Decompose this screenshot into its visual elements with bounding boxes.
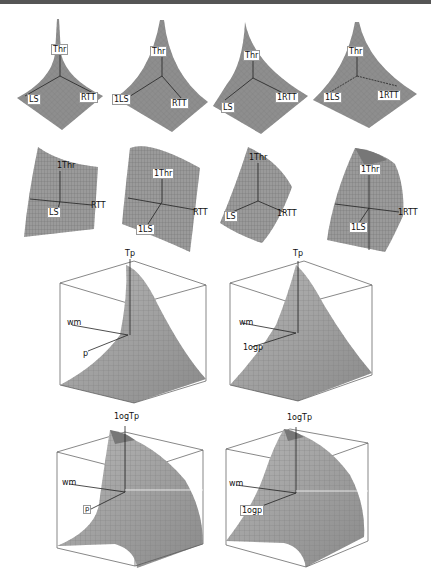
axis-label-p: p [83, 505, 91, 514]
axis-label-y: RTT [192, 208, 209, 217]
axis-label-y: 1RTT [276, 209, 298, 218]
axis-label-y: 1RTT [275, 92, 299, 103]
axis-label-x: LS [47, 207, 61, 218]
plot-1thr-1ls-rtt: 1Thr 1LS RTT [120, 142, 215, 254]
plot-thr-ls-1rtt: Thr LS 1RTT [213, 14, 313, 134]
axis-label-wm: wm [61, 478, 77, 487]
sheet-surface [325, 146, 425, 254]
plot-tp-wm-p: Tp wm p [58, 255, 208, 405]
axis-label-x: 1LS [349, 222, 368, 233]
axis-label-logp: 1ogp [240, 505, 264, 516]
plot-thr-ls-rtt: Thr LS RTT [15, 14, 105, 132]
boxed-surface [224, 425, 374, 570]
plot-1thr-ls-rtt: 1Thr LS RTT [20, 145, 110, 240]
axis-label-z: Thr [51, 44, 68, 55]
axis-label-wm: wm [66, 318, 82, 327]
axis-label-x: 1LS [136, 224, 155, 235]
plot-1thr-ls-1rtt: 1Thr LS 1RTT [218, 145, 313, 245]
axis-label-z: 1Thr [248, 153, 268, 162]
axis-label-logp: 1ogp [242, 343, 264, 352]
top-rule [0, 0, 431, 4]
axis-label-z: Thr [243, 50, 260, 61]
axis-label-y: 1RTT [397, 208, 419, 217]
plot-1thr-1ls-1rtt: 1Thr 1LS 1RTT [325, 146, 425, 254]
spike-surface [313, 14, 423, 134]
plot-thr-1ls-1rtt: Thr 1LS 1RTT [313, 14, 423, 134]
axis-label-z: 1ogTp [286, 413, 313, 422]
axis-label-z: 1Thr [56, 161, 76, 170]
axis-label-y: RTT [79, 92, 98, 103]
axis-label-z: 1Thr [359, 164, 381, 175]
axis-label-z: Thr [150, 46, 167, 57]
plot-logtp-wm-p: 1ogTp wm p [55, 420, 205, 570]
axis-label-p: p [82, 349, 89, 358]
axis-label-z: 1ogTp [113, 412, 140, 421]
sheet-surface [20, 145, 110, 240]
axis-label-wm: wm [238, 318, 254, 327]
axis-label-wm: wm [228, 479, 244, 488]
spike-surface [15, 14, 105, 132]
axis-label-x: LS [224, 211, 238, 222]
plot-tp-wm-logp: Tp wm 1ogp [228, 255, 378, 405]
axis-label-x: 1LS [323, 92, 342, 103]
axis-label-y: RTT [170, 98, 189, 109]
spike-surface [213, 14, 313, 134]
plot-thr-1ls-rtt: Thr 1LS RTT [110, 14, 210, 132]
axis-label-z: Tp [292, 249, 304, 258]
boxed-surface [55, 420, 205, 570]
axis-label-z: Tp [124, 249, 136, 258]
axis-label-z: Thr [347, 46, 364, 57]
sheet-surface [120, 142, 215, 254]
axis-label-x: LS [27, 94, 41, 105]
plot-logtp-wm-logp: 1ogTp wm 1ogp [224, 425, 374, 570]
axis-label-x: LS [221, 102, 235, 113]
boxed-surface [58, 255, 208, 405]
boxed-surface [228, 255, 378, 405]
spike-surface [110, 14, 210, 132]
axis-label-y: 1RTT [377, 90, 401, 101]
axis-label-x: 1LS [112, 94, 131, 105]
axis-label-y: RTT [90, 201, 107, 210]
axis-label-z: 1Thr [152, 168, 174, 179]
